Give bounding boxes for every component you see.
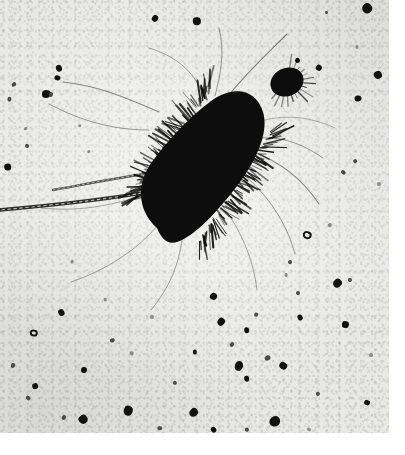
debris-speck — [150, 315, 154, 319]
micrograph-page: rod-shaped bacterium transmission electr… — [0, 0, 405, 455]
debris-speck — [7, 96, 12, 101]
debris-speck — [284, 273, 288, 277]
debris-speck — [158, 426, 163, 430]
debris-speck — [377, 182, 381, 186]
paper-margin-bottom — [0, 433, 405, 455]
paper-margin-right — [389, 0, 405, 455]
photographic-plate — [0, 0, 389, 433]
debris-speck — [193, 17, 202, 25]
